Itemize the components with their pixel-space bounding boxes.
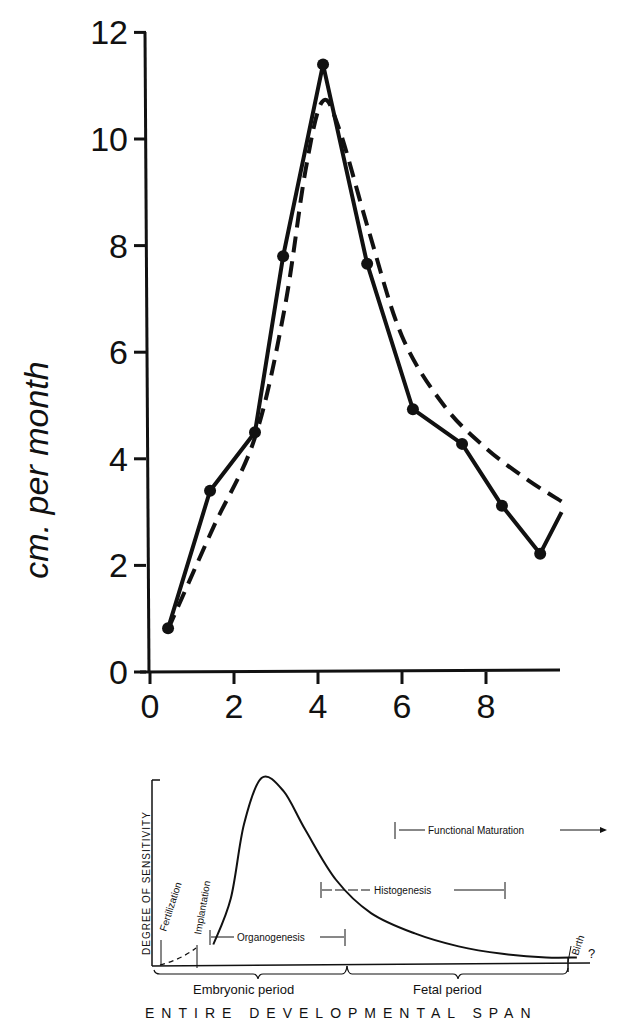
sensitivity-curve — [213, 776, 577, 957]
functional-maturation-label: Functional Maturation — [428, 825, 524, 836]
birth-label: Birth — [569, 934, 586, 957]
data-point — [534, 548, 546, 560]
embryonic-period-label: Embryonic period — [193, 982, 294, 997]
fetal-period-label: Fetal period — [413, 982, 482, 997]
y-tick-label: 0 — [109, 653, 128, 691]
x-axis — [140, 670, 560, 672]
fetal-brace — [347, 966, 568, 979]
x-tick-label: 0 — [141, 687, 160, 725]
y-tick-label: 2 — [109, 546, 128, 584]
fertilization-label: Fertilization — [157, 881, 183, 933]
embryonic-brace — [154, 966, 347, 979]
organogenesis-label: Organogenesis — [237, 932, 305, 943]
top-chart: 024681012 02468 cm. per month — [17, 13, 562, 725]
question-mark: ? — [588, 946, 595, 961]
data-point — [407, 403, 419, 415]
y-tick-label: 8 — [109, 227, 128, 265]
data-point — [317, 58, 329, 70]
sensitivity-diagram: DEGREE OF SENSITIVITY Fertilization Impl… — [141, 776, 607, 1021]
y-tick-label: 4 — [109, 440, 128, 478]
implantation-label: Implantation — [192, 880, 212, 936]
y-tick-label: 6 — [109, 333, 128, 371]
series-observed-line — [168, 64, 562, 628]
y-axis-label: cm. per month — [17, 361, 55, 578]
maturation-arrowhead — [600, 827, 607, 833]
x-tick-label: 8 — [477, 687, 496, 725]
y-tick-label: 10 — [90, 120, 128, 158]
histogenesis-label: Histogenesis — [374, 885, 431, 896]
x-tick-label: 2 — [225, 687, 244, 725]
data-point — [496, 500, 508, 512]
series-smoothed-line — [168, 100, 562, 630]
sensitivity-baseline — [152, 963, 590, 966]
data-point — [456, 438, 468, 450]
data-point — [249, 426, 261, 438]
data-point — [361, 258, 373, 270]
span-label: ENTIRE DEVELOPMENTAL SPAN — [145, 1005, 538, 1021]
y-tick-label: 12 — [90, 13, 128, 51]
data-point — [162, 622, 174, 634]
chart-canvas: 024681012 02468 cm. per month DEGREE OF … — [0, 0, 618, 1029]
x-tick-label: 4 — [309, 687, 328, 725]
sensitivity-y-label: DEGREE OF SENSITIVITY — [141, 811, 152, 955]
x-tick-label: 6 — [393, 687, 412, 725]
data-point — [277, 250, 289, 262]
data-point — [204, 485, 216, 497]
early-dashed-curve — [160, 948, 196, 965]
